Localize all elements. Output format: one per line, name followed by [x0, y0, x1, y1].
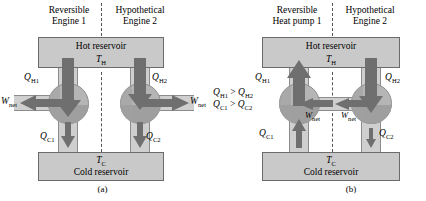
- panel-b-caption: (b): [301, 184, 401, 194]
- panel-b-heatpump1-qc-arrow: [292, 119, 306, 148]
- panel-a-engine1-qh-arrow: [55, 58, 81, 117]
- panel-a-engine2-work-sub: net: [198, 101, 206, 108]
- panel-a-engine1-work-arrow: [20, 95, 66, 111]
- panel-b-heatpump1-work-sub: net: [312, 115, 320, 122]
- relation1-lhs-symbol: Q: [213, 87, 220, 97]
- panel-a-engine1-qc-sub: C1: [47, 136, 55, 143]
- panel-a-engine1-qh-symbol: Q: [24, 72, 31, 82]
- panel-b-heatpump1-qc-sub: C1: [266, 133, 274, 140]
- relation2-lhs-symbol: Q: [213, 99, 220, 109]
- relation2-rhs-sub: C2: [245, 104, 253, 111]
- panel-a-engine2-qh-symbol: Q: [152, 72, 159, 82]
- panel-a-engine1-work-sub: net: [9, 101, 17, 108]
- panel-b-relations: QH1 > QH2 QC1 > QC2: [213, 86, 253, 110]
- panel-a-engine2-qh-label: QH2: [152, 72, 167, 82]
- panel-a-engine1-qc-symbol: Q: [40, 131, 47, 141]
- panel-b-heatpump1-qh-arrow: [287, 60, 311, 106]
- panel-b-heatpump1-qc-symbol: Q: [259, 128, 266, 138]
- relation1-operator: >: [230, 87, 235, 97]
- panel-a-engine1-qh-label: QH1: [24, 72, 39, 82]
- relation2-operator: >: [230, 99, 235, 109]
- panel-a-engine2-work-symbol: W: [190, 96, 198, 106]
- panel-b-heatpump1-qh-label: QH1: [255, 72, 270, 82]
- panel-b-engine2-qc-symbol: Q: [379, 128, 386, 138]
- panel-a-engine2-qh-sub: H2: [159, 77, 167, 84]
- panel-b-engine2-qh-label: QH2: [385, 72, 400, 82]
- panel-a-engine2-qc-sub: C2: [153, 136, 161, 143]
- panel-b-engine2-qc-arrow: [366, 128, 376, 148]
- panel-b-engine2-qh-symbol: Q: [385, 72, 392, 82]
- panel-b-engine2-qh-sub: H2: [392, 77, 400, 84]
- panel-a-engine1-qh-sub: H1: [31, 77, 39, 84]
- panel-a-engine2-qc-symbol: Q: [146, 131, 153, 141]
- panel-b-heatpump1-work-label: Wnet: [305, 110, 320, 120]
- relation1-rhs-symbol: Q: [238, 87, 245, 97]
- figure-root: Reversible Engine 1 Hypothetical Engine …: [0, 0, 426, 201]
- panel-b-engine2-qc-label: QC2: [379, 128, 394, 138]
- relation2-rhs-symbol: Q: [238, 99, 245, 109]
- panel-a-engine2-work-label: Wnet: [190, 96, 206, 106]
- panel-a-engine1-work-symbol: W: [1, 96, 9, 106]
- panel-b-heatpump1-qh-symbol: Q: [255, 72, 262, 82]
- panel-b-relation-line2: QC1 > QC2: [213, 98, 253, 110]
- panel-b-engine2-qc-sub: C2: [386, 133, 394, 140]
- panel-a-engine1-work-label: Wnet: [1, 96, 17, 106]
- panel-b-heatpump1-qc-label: QC1: [259, 128, 274, 138]
- panel-a-engine1-qc-label: QC1: [40, 131, 55, 141]
- panel-a: Reversible Engine 1 Hypothetical Engine …: [0, 0, 213, 201]
- panel-a-caption: (a): [0, 184, 205, 194]
- panel-b-engine2-work-sub: net: [348, 115, 356, 122]
- relation2-lhs-sub: C1: [220, 104, 228, 111]
- panel-a-engine2-qc-label: QC2: [146, 131, 161, 141]
- panel-a-arrows: [0, 0, 213, 201]
- panel-a-engine2-qc-arrow: [133, 122, 147, 148]
- panel-b-relation-line1: QH1 > QH2: [213, 86, 253, 98]
- panel-b-heatpump1-qh-sub: H1: [262, 77, 270, 84]
- panel-b-engine2-work-label: Wnet: [341, 110, 356, 120]
- panel-b: Reversible Heat pump 1 Hypothetical Engi…: [213, 0, 426, 201]
- panel-a-engine1-qc-arrow: [61, 122, 75, 148]
